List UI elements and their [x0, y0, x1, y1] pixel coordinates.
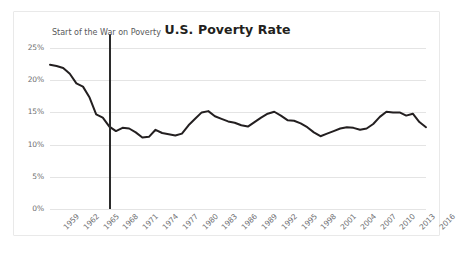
plot-area: Start of the War on Poverty: [50, 48, 426, 209]
poverty-rate-line-series: [50, 48, 426, 209]
y-tick-5pct: 5%: [14, 172, 44, 181]
y-tick-0pct: 0%: [14, 204, 44, 213]
x-tick-1965: 1965: [101, 212, 121, 232]
y-tick-25pct: 25%: [14, 43, 44, 52]
x-tick-1968: 1968: [121, 212, 141, 232]
x-tick-1995: 1995: [299, 212, 319, 232]
y-tick-10pct: 10%: [14, 140, 44, 149]
x-axis-tick-labels: 1959196219651968197119741977198019831986…: [50, 212, 426, 242]
x-tick-1989: 1989: [259, 212, 279, 232]
x-tick-1971: 1971: [141, 212, 161, 232]
x-tick-2013: 2013: [418, 212, 438, 232]
x-tick-1998: 1998: [319, 212, 339, 232]
x-tick-1974: 1974: [160, 212, 180, 232]
gridline-0pct: [50, 209, 426, 210]
x-tick-1983: 1983: [220, 212, 240, 232]
y-tick-20pct: 20%: [14, 75, 44, 84]
x-tick-2004: 2004: [358, 212, 378, 232]
x-tick-2007: 2007: [378, 212, 398, 232]
war-on-poverty-marker-line: [109, 34, 111, 209]
x-tick-2016: 2016: [437, 212, 457, 232]
x-tick-1962: 1962: [81, 212, 101, 232]
x-tick-2010: 2010: [398, 212, 418, 232]
y-tick-15pct: 15%: [14, 107, 44, 116]
x-tick-2001: 2001: [339, 212, 359, 232]
x-tick-1992: 1992: [279, 212, 299, 232]
x-tick-1980: 1980: [200, 212, 220, 232]
chart-card: U.S. Poverty Rate 0%5%10%15%20%25% Start…: [13, 11, 440, 236]
x-tick-1977: 1977: [180, 212, 200, 232]
war-on-poverty-annotation-label: Start of the War on Poverty: [52, 28, 161, 37]
x-tick-1986: 1986: [240, 212, 260, 232]
x-tick-1959: 1959: [61, 212, 81, 232]
